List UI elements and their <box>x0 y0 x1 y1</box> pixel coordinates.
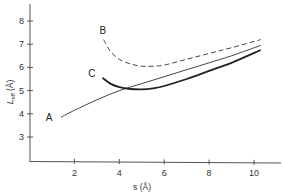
y-ticks: 345678 <box>19 16 33 142</box>
curve-c <box>103 50 261 89</box>
y-tick-label: 4 <box>19 109 24 119</box>
x-tick-label: 10 <box>249 168 259 178</box>
x-axis-label: s (Å) <box>133 182 151 192</box>
y-tick-label: 7 <box>19 39 24 49</box>
x-tick-label: 2 <box>72 168 77 178</box>
curve-b-label: B <box>100 25 107 36</box>
x-tick-label: 4 <box>117 168 122 178</box>
y-tick-label: 5 <box>19 86 24 96</box>
curve-c-label: C <box>88 68 95 79</box>
x-axis <box>30 162 281 164</box>
y-axis-label-unit: (Å) <box>5 80 15 92</box>
y-tick-label: 3 <box>19 132 24 142</box>
chart: 345678 246810 s (Å) Leff(Å) A B C <box>0 0 283 194</box>
y-tick-label: 8 <box>19 16 24 26</box>
curve-a <box>61 45 261 117</box>
curve-a-label: A <box>46 112 53 123</box>
x-tick-label: 8 <box>207 168 212 178</box>
curve-b <box>104 40 261 67</box>
x-tick-label: 6 <box>162 168 167 178</box>
y-axis-label: Leff(Å) <box>5 80 16 105</box>
y-axis-label-sub: eff <box>10 93 16 100</box>
svg-text:Leff(Å): Leff(Å) <box>5 80 16 105</box>
y-tick-label: 6 <box>19 62 24 72</box>
chart-canvas: 345678 246810 s (Å) Leff(Å) A B C <box>0 0 283 194</box>
